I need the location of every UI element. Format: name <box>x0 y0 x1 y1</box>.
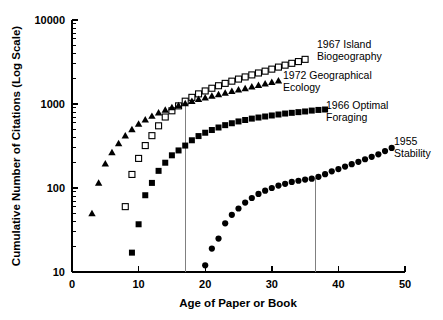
data-point-circle <box>342 163 348 169</box>
data-point-triangle <box>95 179 102 185</box>
data-point-square <box>255 115 261 121</box>
data-point-triangle <box>268 79 275 85</box>
data-point-triangle <box>128 126 135 132</box>
data-point-square <box>176 147 182 153</box>
series-filled-circle <box>202 145 395 269</box>
data-point-circle <box>335 166 341 172</box>
data-point-square <box>222 122 228 128</box>
x-axis-tick-labels: 01020304050 <box>69 278 411 290</box>
y-tick-label: 10 <box>53 266 65 278</box>
data-point-circle <box>255 191 261 197</box>
y-tick-label: 10000 <box>34 14 65 26</box>
data-point-square <box>242 117 248 123</box>
label-stability-line2: Stability <box>394 147 432 159</box>
data-point-square <box>142 192 148 198</box>
data-point-triangle <box>241 85 248 91</box>
data-point-square <box>209 127 215 133</box>
data-point-open-square <box>236 76 242 82</box>
data-point-triangle <box>168 104 175 110</box>
data-point-open-square <box>222 80 228 86</box>
data-point-open-square <box>142 143 148 149</box>
data-point-circle <box>222 220 228 226</box>
data-point-square <box>309 108 315 114</box>
data-point-triangle <box>115 140 122 146</box>
data-point-square <box>149 180 155 186</box>
label-stability-line1: 1955 <box>394 135 418 147</box>
data-point-open-square <box>269 66 275 72</box>
data-point-circle <box>355 159 361 165</box>
data-point-square <box>295 109 301 115</box>
data-point-open-square <box>122 204 128 210</box>
citation-growth-chart: 10100100010000 01020304050 Age of Paper … <box>0 0 443 320</box>
data-point-triangle <box>102 160 109 166</box>
data-point-triangle <box>255 81 262 87</box>
data-point-square <box>136 221 142 227</box>
data-point-circle <box>302 176 308 182</box>
data-point-open-square <box>156 123 162 129</box>
data-point-square <box>129 250 135 256</box>
data-point-triangle <box>275 77 282 83</box>
y-tick-label: 1000 <box>41 98 65 110</box>
data-point-square <box>249 116 255 122</box>
data-point-square <box>236 118 242 124</box>
data-point-square <box>289 110 295 116</box>
data-series-layer <box>88 56 395 268</box>
data-point-circle <box>289 179 295 185</box>
data-point-square <box>282 111 288 117</box>
y-axis-ticks <box>72 20 78 272</box>
data-point-triangle <box>235 86 242 92</box>
data-point-open-square <box>209 85 215 91</box>
x-axis-title: Age of Paper or Book <box>179 297 297 309</box>
data-point-square <box>262 113 268 119</box>
data-point-circle <box>282 181 288 187</box>
data-point-circle <box>322 171 328 177</box>
data-point-open-square <box>249 72 255 78</box>
data-point-square <box>275 111 281 117</box>
data-point-open-square <box>149 133 155 139</box>
data-point-triangle <box>155 109 162 115</box>
chart-canvas: 10100100010000 01020304050 Age of Paper … <box>0 0 443 320</box>
data-point-circle <box>362 156 368 162</box>
data-point-open-square <box>216 83 222 89</box>
data-point-square <box>216 125 222 131</box>
data-point-circle <box>242 200 248 206</box>
data-point-open-square <box>162 114 168 120</box>
x-tick-label: 30 <box>266 278 278 290</box>
data-point-open-square <box>262 68 268 74</box>
data-point-square <box>315 107 321 113</box>
data-point-circle <box>215 235 221 241</box>
label-optimal-foraging-line1: 1966 Optimal <box>326 99 388 111</box>
label-geographical-ecology-line1: 1972 Geographical <box>283 69 372 81</box>
data-point-triangle <box>221 89 228 95</box>
data-point-open-square <box>202 88 208 94</box>
data-point-triangle <box>135 120 142 126</box>
data-point-circle <box>382 148 388 154</box>
data-point-circle <box>229 212 235 218</box>
label-island-biogeography-line1: 1967 Island <box>317 38 371 50</box>
data-point-circle <box>369 154 375 160</box>
data-point-triangle <box>148 112 155 118</box>
y-axis-tick-labels: 10100100010000 <box>34 14 65 278</box>
label-geographical-ecology-line2: Ecology <box>283 81 321 93</box>
data-point-triangle <box>162 106 169 112</box>
data-point-circle <box>315 174 321 180</box>
data-point-square <box>189 137 195 143</box>
data-point-triangle <box>261 80 268 86</box>
data-point-triangle <box>108 149 115 155</box>
reference-lines <box>185 99 315 272</box>
data-point-circle <box>295 178 301 184</box>
data-point-square <box>182 143 188 149</box>
data-point-circle <box>309 176 315 182</box>
y-tick-label: 100 <box>47 182 65 194</box>
data-point-open-square <box>136 155 142 161</box>
data-point-open-square <box>275 64 281 70</box>
data-point-open-square <box>229 78 235 84</box>
x-tick-label: 10 <box>132 278 144 290</box>
data-point-triangle <box>248 83 255 89</box>
data-point-circle <box>262 188 268 194</box>
data-point-square <box>169 152 175 158</box>
data-point-circle <box>375 151 381 157</box>
x-axis-ticks <box>72 266 405 272</box>
data-point-open-square <box>295 59 301 65</box>
data-point-circle <box>269 185 275 191</box>
